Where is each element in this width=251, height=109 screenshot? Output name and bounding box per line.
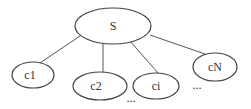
edge-s-cn: [150, 35, 205, 54]
node-c2-label: c2: [90, 79, 101, 93]
edge-s-ci: [130, 41, 158, 73]
edge-s-c1: [40, 36, 80, 63]
node-root-label: S: [110, 19, 117, 33]
node-cn-label: cN: [208, 60, 222, 74]
ellipsis-marker-1: ...: [127, 91, 136, 105]
node-ci-label: ci: [152, 79, 161, 93]
tree-diagram: S c1 c2 ci cN ... ...: [0, 0, 251, 109]
node-c1-label: c1: [24, 68, 35, 82]
ellipsis-marker-2: ...: [193, 78, 202, 92]
